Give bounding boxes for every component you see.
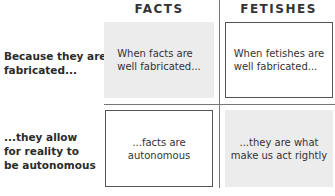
row-label-line: be autonomous — [4, 158, 96, 172]
cell-text-line: well fabricated... — [234, 60, 325, 73]
cell-text-line: ...they are what — [231, 136, 327, 149]
horizontal-divider — [104, 104, 335, 105]
cell-facts-autonomous: ...facts are autonomous — [105, 110, 213, 187]
row-label-autonomous: ...they allow for reality to be autonomo… — [4, 130, 96, 172]
cell-facts-fabricated: When facts are well fabricated... — [104, 22, 214, 98]
cell-text-line: When fetishes are — [234, 47, 325, 60]
column-header-fetishes: FETISHES — [222, 2, 335, 16]
cell-fetishes-fabricated: When fetishes are well fabricated... — [225, 22, 333, 98]
row-label-line: fabricated... — [4, 63, 106, 77]
column-header-facts: FACTS — [104, 2, 214, 16]
cell-fetishes-autonomous: ...they are what make us act rightly — [225, 110, 333, 187]
row-label-line: for reality to — [4, 144, 96, 158]
vertical-divider — [219, 0, 220, 188]
cell-text-line: When facts are — [117, 47, 201, 60]
row-label-line: Because they are — [4, 49, 106, 63]
cell-text-line: ...facts are — [128, 136, 190, 149]
cell-text-line: well fabricated... — [117, 60, 201, 73]
row-label-line: ...they allow — [4, 130, 96, 144]
row-label-fabricated: Because they are fabricated... — [4, 49, 106, 77]
cell-text-line: autonomous — [128, 149, 190, 162]
cell-text-line: make us act rightly — [231, 149, 327, 162]
